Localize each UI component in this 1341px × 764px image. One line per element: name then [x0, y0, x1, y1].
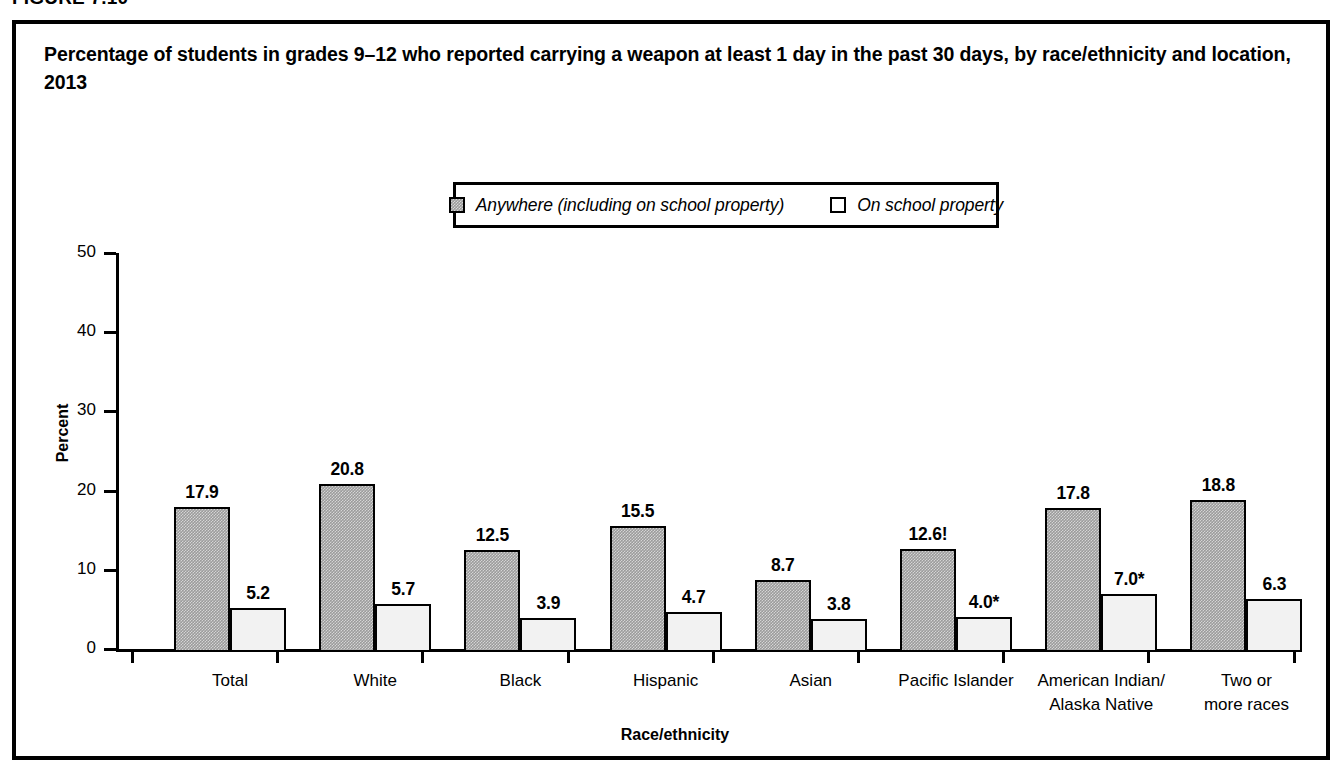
y-axis-tick: [104, 252, 116, 255]
figure-number: FIGURE 7.10: [12, 0, 128, 9]
x-axis-tick: [276, 652, 279, 663]
bar-value-label: 6.3: [1229, 574, 1319, 595]
chart-bar: [375, 604, 431, 652]
y-axis-tick: [104, 569, 116, 572]
chart-bar: [230, 608, 286, 652]
chart-bar: [811, 619, 867, 652]
chart-plot-area: Percent Race/ethnicity 01020304050 17.92…: [16, 24, 1334, 764]
x-axis-category-label: Two ormore races: [1151, 669, 1341, 717]
bar-value-label: 15.5: [593, 501, 683, 522]
chart-bar: [1246, 599, 1302, 652]
bar-value-label: 12.6!: [883, 524, 973, 545]
bar-value-label: 3.9: [503, 593, 593, 614]
chart-bar: [319, 484, 375, 652]
y-axis-tick-label: 30: [48, 400, 96, 420]
x-axis-tick: [567, 652, 570, 663]
bar-value-label: 20.8: [302, 459, 392, 480]
x-axis-tick: [857, 652, 860, 663]
figure-box: Percentage of students in grades 9–12 wh…: [12, 20, 1330, 760]
bar-value-label: 4.7: [649, 587, 739, 608]
bar-value-label: 4.0*: [939, 592, 1029, 613]
y-axis-tick: [104, 331, 116, 334]
y-axis-tick-label: 40: [48, 321, 96, 341]
bar-value-label: 7.0*: [1084, 569, 1174, 590]
chart-bar: [666, 612, 722, 652]
y-axis-tick-label: 50: [48, 242, 96, 262]
chart-bar: [174, 507, 230, 652]
bar-value-label: 12.5: [447, 525, 537, 546]
y-axis-tick-label: 0: [48, 638, 96, 658]
y-axis-title: Percent: [54, 383, 72, 483]
x-axis-title: Race/ethnicity: [16, 726, 1334, 744]
chart-bar: [520, 618, 576, 652]
bar-value-label: 8.7: [738, 555, 828, 576]
chart-bar: [1101, 594, 1157, 652]
bar-value-label: 17.8: [1028, 483, 1118, 504]
y-axis-tick: [104, 410, 116, 413]
x-axis-tick: [712, 652, 715, 663]
y-axis-tick: [104, 490, 116, 493]
category-label-line: more races: [1151, 693, 1341, 717]
y-axis-tick: [104, 648, 116, 651]
chart-bar: [956, 617, 1012, 652]
x-axis-tick: [131, 652, 134, 663]
bar-value-label: 5.2: [213, 583, 303, 604]
bar-value-label: 3.8: [794, 594, 884, 615]
y-axis-tick-label: 10: [48, 559, 96, 579]
bar-value-label: 17.9: [157, 482, 247, 503]
x-axis-tick: [1147, 652, 1150, 663]
bar-value-label: 18.8: [1173, 475, 1263, 496]
x-axis-tick: [421, 652, 424, 663]
y-axis-tick-label: 20: [48, 480, 96, 500]
chart-bar: [755, 580, 811, 652]
category-label-line: Two or: [1151, 669, 1341, 693]
x-axis-tick: [1002, 652, 1005, 663]
y-axis-line: [116, 253, 119, 651]
x-axis-tick: [1293, 652, 1296, 663]
bar-value-label: 5.7: [358, 579, 448, 600]
